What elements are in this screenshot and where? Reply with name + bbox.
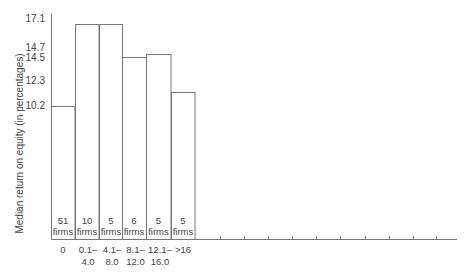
x-category-4: 12.1– 16.0 bbox=[146, 244, 174, 268]
firm-count: 5 bbox=[146, 215, 171, 226]
firm-unit: firms bbox=[122, 226, 146, 237]
x-label-line1: >16 bbox=[171, 244, 195, 256]
x-category-1: 0.1– 4.0 bbox=[75, 244, 101, 268]
firm-count: 10 bbox=[75, 215, 99, 226]
bar-annotation-4: 5 firms bbox=[146, 215, 171, 237]
bar-annotation-5: 5 firms bbox=[171, 215, 195, 237]
bar-0-1-4-0 bbox=[76, 25, 100, 240]
firm-unit: firms bbox=[99, 226, 123, 237]
x-label-line1: 0 bbox=[51, 244, 75, 256]
bar-annotation-0: 51 firms bbox=[51, 215, 75, 237]
firm-unit: firms bbox=[171, 226, 195, 237]
firm-count: 51 bbox=[51, 215, 75, 226]
bar-12-1-16-0 bbox=[147, 55, 172, 240]
firm-unit: firms bbox=[146, 226, 171, 237]
bar-4-1-8-0 bbox=[100, 25, 123, 240]
x-category-0: 0 bbox=[51, 244, 75, 256]
firm-count: 5 bbox=[99, 215, 123, 226]
firm-unit: firms bbox=[51, 226, 75, 237]
bar-annotation-3: 6 firms bbox=[122, 215, 146, 237]
x-label-line2: 12.0 bbox=[122, 256, 149, 268]
firm-unit: firms bbox=[75, 226, 99, 237]
firm-count: 5 bbox=[171, 215, 195, 226]
x-label-line1: 8.1– bbox=[122, 244, 149, 256]
x-label-line2: 4.0 bbox=[75, 256, 101, 268]
firm-count: 6 bbox=[122, 215, 146, 226]
bar-annotation-2: 5 firms bbox=[99, 215, 123, 237]
x-category-3: 8.1– 12.0 bbox=[122, 244, 149, 268]
bar-8-1-12-0 bbox=[123, 58, 147, 240]
x-label-line1: 0.1– bbox=[75, 244, 101, 256]
bar-annotation-1: 10 firms bbox=[75, 215, 99, 237]
x-label-line2: 16.0 bbox=[146, 256, 174, 268]
x-label-line1: 12.1– bbox=[146, 244, 174, 256]
x-category-5: >16 bbox=[171, 244, 195, 256]
